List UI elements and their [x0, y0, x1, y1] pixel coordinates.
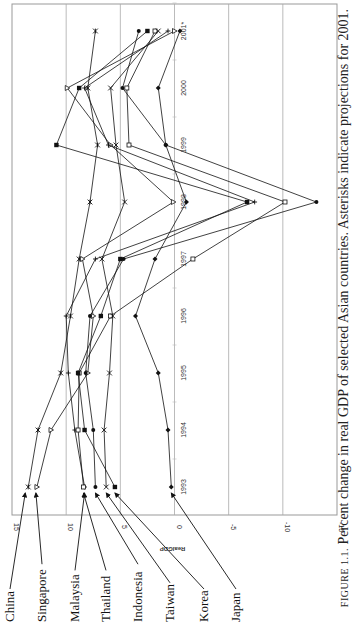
- svg-text:1996: 1996: [180, 308, 187, 324]
- legend-label-japan: Japan: [228, 592, 243, 622]
- y-axis-label: RealGDP: [160, 546, 186, 552]
- year-axis-ticks: 199319941995199619971998199920002001*: [180, 22, 187, 495]
- legend-label-china: China: [2, 591, 17, 622]
- caption-text: Percent change in real GDP of selected A…: [336, 9, 351, 545]
- svg-text:1993: 1993: [180, 479, 187, 495]
- svg-text:2000: 2000: [180, 80, 187, 96]
- gdp-line-chart: 151050-5-10-15 1993199419951996199719981…: [0, 0, 364, 624]
- legend-label-korea: Korea: [196, 590, 211, 622]
- value-axis-ticks: 151050-5-10-15: [13, 522, 345, 532]
- legend-label-thailand: Thailand: [98, 575, 113, 622]
- figure-caption: FIGURE 1.1. Percent change in real GDP o…: [330, 0, 360, 624]
- legend-label-malaysia: Malaysia: [67, 574, 82, 622]
- svg-text:1994: 1994: [180, 422, 187, 438]
- data-series: [26, 29, 319, 490]
- legend-label-singapore: Singapore: [34, 569, 49, 622]
- svg-text:-10: -10: [284, 522, 291, 532]
- svg-text:1995: 1995: [180, 365, 187, 381]
- svg-text:0: 0: [176, 525, 183, 529]
- gridlines: [66, 3, 283, 515]
- svg-text:10: 10: [67, 523, 74, 531]
- svg-text:RealGDP: RealGDP: [160, 546, 186, 552]
- arrow-legend: ChinaSingaporeMalaysiaThailandIndonesiaT…: [2, 493, 243, 622]
- svg-text:-5: -5: [230, 524, 237, 530]
- figure-label: FIGURE 1.1.: [339, 548, 350, 607]
- legend-label-taiwan: Taiwan: [162, 583, 177, 622]
- legend-label-indonesia: Indonesia: [130, 571, 145, 622]
- series-malaysia: [64, 29, 257, 490]
- svg-text:5: 5: [121, 525, 128, 529]
